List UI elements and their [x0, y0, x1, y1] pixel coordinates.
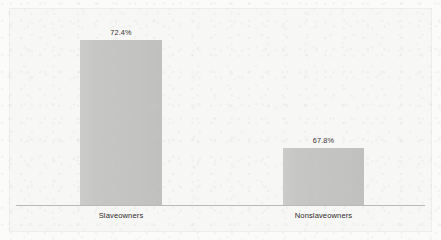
bar-slaveowners[interactable]: [80, 40, 162, 205]
x-axis-label-nonslaveowners: Nonslaveowners: [253, 210, 394, 221]
x-axis-line: [16, 205, 425, 206]
x-axis-label-slaveowners: Slaveowners: [50, 210, 192, 221]
plot-area: 72.4% 67.8% Slaveowners Nonslaveowners: [0, 0, 441, 240]
bar-value-label-nonslaveowners: 67.8%: [283, 136, 364, 146]
bar-nonslaveowners[interactable]: [283, 148, 364, 205]
bar-chart-figure: 72.4% 67.8% Slaveowners Nonslaveowners: [0, 0, 441, 240]
bar-shade: [80, 40, 162, 205]
bar-shade: [283, 148, 364, 205]
bar-value-label-slaveowners: 72.4%: [80, 28, 162, 38]
